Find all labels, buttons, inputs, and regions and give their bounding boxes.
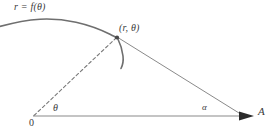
polar-curve-tail-path bbox=[118, 38, 124, 69]
polar-diagram-canvas bbox=[0, 0, 271, 135]
radius-vector-line bbox=[34, 38, 116, 116]
axis-label: A bbox=[258, 106, 265, 117]
alpha-angle-label: α bbox=[202, 103, 207, 112]
point-marker-icon bbox=[115, 35, 119, 39]
theta-angle-label: θ bbox=[53, 103, 58, 113]
polar-curve-path bbox=[0, 19, 118, 38]
axis-arrowhead-icon bbox=[239, 112, 254, 121]
tangent-line bbox=[117, 37, 243, 116]
point-coordinates-label: (r, θ) bbox=[119, 23, 140, 33]
polar-diagram-figure: r = f(θ) (r, θ) θ α 0 A bbox=[0, 0, 271, 135]
curve-equation-label: r = f(θ) bbox=[14, 2, 46, 12]
origin-label: 0 bbox=[29, 118, 34, 128]
